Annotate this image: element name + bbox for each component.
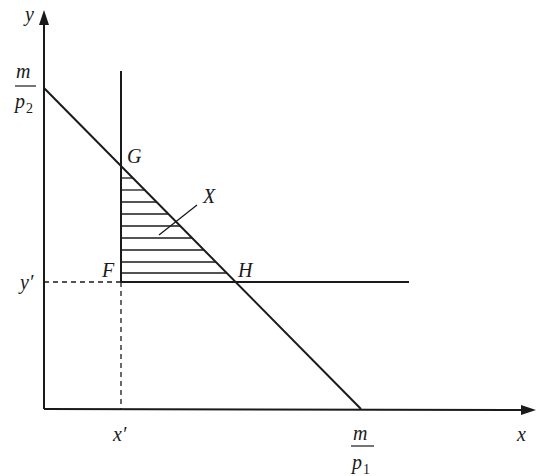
x-axis-label: x: [516, 423, 526, 445]
x-intercept-numerator: m: [353, 422, 367, 444]
x-prime-label: x′: [112, 423, 127, 445]
point-f-label: F: [101, 259, 115, 281]
budget-line: [44, 88, 361, 409]
x-axis-arrow-icon: [521, 405, 536, 415]
point-g-label: G: [127, 145, 142, 167]
x-intercept-denominator: p: [350, 451, 362, 474]
budget-diagram: y x m p 2 m p 1 x′ y′ G F H X: [0, 0, 537, 476]
x-axis: [44, 409, 524, 410]
region-x-label: X: [202, 185, 216, 207]
y-intercept-denominator: p: [13, 90, 25, 113]
x-intercept-denominator-sub: 1: [363, 462, 370, 476]
y-intercept-numerator: m: [16, 60, 30, 82]
y-axis-label: y: [23, 3, 34, 26]
y-prime-label: y′: [18, 271, 34, 294]
y-intercept-denominator-sub: 2: [26, 101, 33, 116]
point-h-label: H: [237, 259, 254, 281]
y-axis-arrow-icon: [39, 10, 49, 25]
